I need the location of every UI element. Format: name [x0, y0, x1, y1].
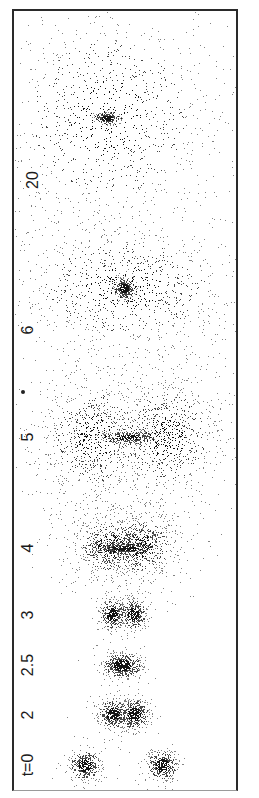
- simulation-figure: t=0 2 2.5 3 4 5 6 20: [0, 0, 259, 798]
- time-label-4: 4: [20, 544, 36, 553]
- time-label-2-5: 2.5: [20, 654, 36, 676]
- stray-dot-mark: [21, 390, 25, 394]
- time-label-t0: t=0: [20, 754, 36, 777]
- time-label-6: 6: [20, 326, 36, 335]
- time-label-2: 2: [20, 711, 36, 720]
- particle-scatter-plot: [0, 0, 259, 798]
- time-label-5: 5: [20, 433, 36, 442]
- time-label-20: 20: [25, 171, 41, 189]
- time-label-3: 3: [20, 611, 36, 620]
